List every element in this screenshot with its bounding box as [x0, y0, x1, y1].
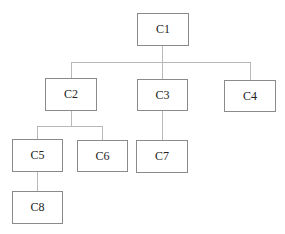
node-label: C2 — [64, 87, 78, 102]
connector-c2-down — [71, 111, 72, 126]
connector-to-c2 — [71, 62, 72, 78]
connector-level2-bar — [37, 126, 103, 127]
node-label: C8 — [30, 200, 44, 215]
node-label: C7 — [155, 149, 169, 164]
connector-c3-to-c7 — [162, 111, 163, 140]
node-c5: C5 — [12, 139, 63, 172]
connector-to-c3 — [162, 62, 163, 79]
connector-to-c6 — [102, 126, 103, 140]
connector-level1-bar — [71, 62, 251, 63]
node-c3: C3 — [137, 79, 188, 111]
connector-c5-to-c8 — [37, 172, 38, 191]
node-c1: C1 — [137, 13, 189, 46]
node-label: C5 — [30, 148, 44, 163]
node-c7: C7 — [136, 140, 188, 173]
node-c2: C2 — [45, 78, 97, 111]
connector-c1-down — [162, 46, 163, 62]
connector-to-c4 — [250, 62, 251, 80]
node-c6: C6 — [77, 140, 128, 172]
connector-to-c5 — [37, 126, 38, 139]
node-c4: C4 — [224, 80, 276, 112]
node-c8: C8 — [12, 191, 63, 224]
node-label: C3 — [155, 88, 169, 103]
node-label: C1 — [156, 22, 170, 37]
node-label: C6 — [95, 149, 109, 164]
node-label: C4 — [243, 89, 257, 104]
